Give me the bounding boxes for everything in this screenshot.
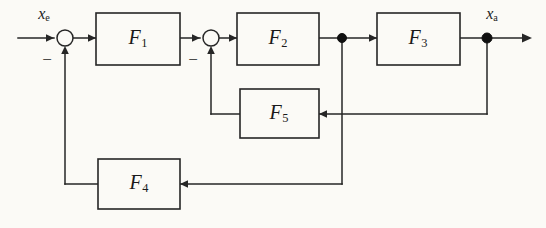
- arrowhead-f5-sum2: [207, 46, 215, 54]
- block-label-f2: F2: [269, 26, 288, 51]
- block-label-f1: F1: [129, 26, 148, 51]
- arrowhead-sum2-f2: [229, 34, 237, 42]
- block-diagram-figure: F1 F2 F3 F5 F4 xe xa − −: [0, 0, 546, 228]
- sign-minus-sum2: −: [188, 51, 198, 68]
- block-label-f5: F5: [270, 101, 289, 126]
- arrowhead-into-f5: [319, 110, 327, 118]
- summing-junction-1[interactable]: [57, 30, 73, 46]
- arrowhead-input-sum1: [46, 34, 54, 42]
- junction-dot-f2-output: [338, 34, 347, 43]
- arrowhead-into-f4: [180, 180, 188, 188]
- arrowhead-f4-sum1: [61, 46, 69, 54]
- block-label-f4: F4: [130, 171, 149, 196]
- arrowhead-sum1-f1: [88, 34, 96, 42]
- junction-dot-xa: [482, 33, 492, 43]
- arrowhead-output: [522, 34, 532, 43]
- summing-junction-2[interactable]: [203, 30, 219, 46]
- sign-minus-sum1: −: [42, 51, 52, 68]
- arrowhead-node-f3: [369, 34, 377, 42]
- signal-label-input-xe: xe: [38, 5, 50, 24]
- block-label-f3: F3: [409, 26, 428, 51]
- arrowhead-f1-sum2: [192, 34, 200, 42]
- signal-label-output-xa: xa: [486, 5, 498, 24]
